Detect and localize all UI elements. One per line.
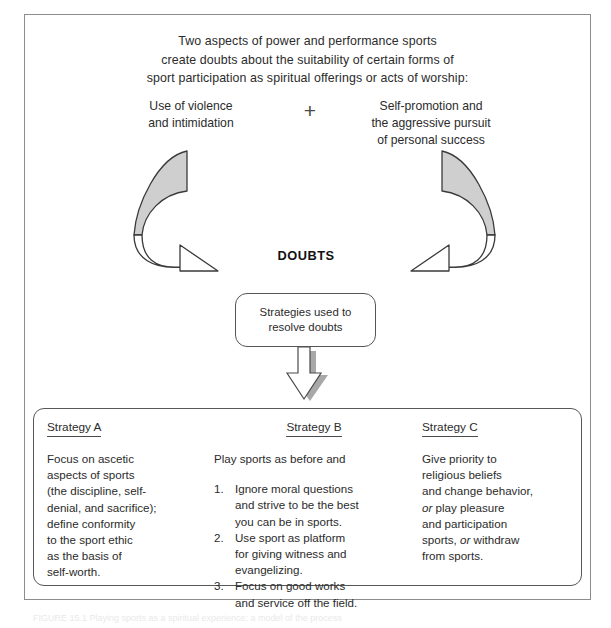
strategy-c-line-7: from sports. xyxy=(422,548,574,564)
strategy-c-line-6: sports, or withdraw xyxy=(422,532,574,548)
strategy-b-item-2-line-1: Use sport as platform xyxy=(235,530,414,546)
strategy-b-item-2-line-2: for giving witness and xyxy=(235,546,414,562)
strategy-b-item-2-line-3: evangelizing. xyxy=(235,562,414,578)
strategy-b-item-3-number: 3. xyxy=(214,578,224,594)
strategy-b-item-2: 2. Use sport as platform for giving witn… xyxy=(214,530,414,579)
aspect-left-line-2: and intimidation xyxy=(96,115,286,132)
strategy-c-line-3: and change behavior, xyxy=(422,483,574,499)
strategy-b-body: Play sports as before and 1. Ignore mora… xyxy=(214,451,414,611)
strategies-node-line-1: Strategies used to xyxy=(260,305,352,321)
strategy-c-line-4: or play pleasure xyxy=(422,500,574,516)
strategy-a-line-4: denial, and sacrifice); xyxy=(47,500,207,516)
strategy-b-lead: Play sports as before and xyxy=(214,451,414,467)
heading-line-1: Two aspects of power and performance spo… xyxy=(44,32,571,51)
strategy-c-italic-or-2: or xyxy=(460,533,470,546)
strategy-a-body: Focus on ascetic aspects of sports (the … xyxy=(47,451,207,581)
strategy-a-line-5: define conformity xyxy=(47,516,207,532)
aspect-right-label: Self-promotion and the aggressive pursui… xyxy=(332,98,530,149)
strategy-c-body: Give priority to religious beliefs and c… xyxy=(422,451,574,564)
heading-line-2: create doubts about the suitability of c… xyxy=(44,51,571,70)
strategy-c-title: Strategy C xyxy=(422,420,478,437)
strategy-b-title: Strategy B xyxy=(286,420,341,437)
aspect-right-line-1: Self-promotion and xyxy=(332,98,530,115)
strategy-b-item-1-line-2: and strive to be the best xyxy=(235,497,414,513)
strategy-c-column: Strategy C Give priority to religious be… xyxy=(422,409,574,564)
strategy-c-line-1: Give priority to xyxy=(422,451,574,467)
figure-caption: FIGURE 15.1 Playing sports as a spiritua… xyxy=(33,612,593,624)
plus-operator: + xyxy=(290,100,330,121)
strategies-node-line-2: resolve doubts xyxy=(260,320,352,336)
strategy-b-item-1: 1. Ignore moral questions and strive to … xyxy=(214,481,414,530)
strategy-b-item-3-line-2: and service off the field. xyxy=(235,595,414,611)
curved-arrow-left-icon xyxy=(132,147,228,279)
strategy-b-column: Strategy B Play sports as before and 1. … xyxy=(214,409,414,611)
strategy-b-item-1-number: 1. xyxy=(214,481,224,497)
aspect-right-line-2: the aggressive pursuit xyxy=(332,115,530,132)
curved-arrow-right-icon xyxy=(401,147,497,279)
doubts-label: DOUBTS xyxy=(236,248,376,263)
strategy-a-title: Strategy A xyxy=(47,420,101,437)
figure-heading: Two aspects of power and performance spo… xyxy=(44,32,571,88)
down-arrow-icon xyxy=(283,347,331,409)
strategy-a-line-1: Focus on ascetic xyxy=(47,451,207,467)
aspect-left-label: Use of violence and intimidation xyxy=(96,98,286,132)
diagram-page: Two aspects of power and performance spo… xyxy=(0,0,611,628)
strategies-node: Strategies used to resolve doubts xyxy=(235,293,376,347)
strategy-a-line-6: to the sport ethic xyxy=(47,532,207,548)
aspect-left-line-1: Use of violence xyxy=(96,98,286,115)
strategy-b-list: 1. Ignore moral questions and strive to … xyxy=(214,481,414,611)
strategies-panel: Strategy A Focus on ascetic aspects of s… xyxy=(33,408,582,586)
strategy-c-line-5: and participation xyxy=(422,516,574,532)
strategy-a-line-8: self-worth. xyxy=(47,564,207,580)
strategy-a-line-7: as the basis of xyxy=(47,548,207,564)
strategy-b-item-2-number: 2. xyxy=(214,530,224,546)
strategy-b-item-1-line-3: you can be in sports. xyxy=(235,514,414,530)
strategy-a-column: Strategy A Focus on ascetic aspects of s… xyxy=(47,409,207,581)
strategy-b-item-3: 3. Focus on good works and service off t… xyxy=(214,578,414,610)
strategy-b-item-1-line-1: Ignore moral questions xyxy=(235,481,414,497)
strategy-b-item-3-line-1: Focus on good works xyxy=(235,578,414,594)
strategy-c-line-2: religious beliefs xyxy=(422,467,574,483)
strategy-c-italic-or-1: or xyxy=(422,501,432,514)
heading-line-3: sport participation as spiritual offerin… xyxy=(44,69,571,88)
strategy-a-line-2: aspects of sports xyxy=(47,467,207,483)
strategy-a-line-3: (the discipline, self- xyxy=(47,483,207,499)
